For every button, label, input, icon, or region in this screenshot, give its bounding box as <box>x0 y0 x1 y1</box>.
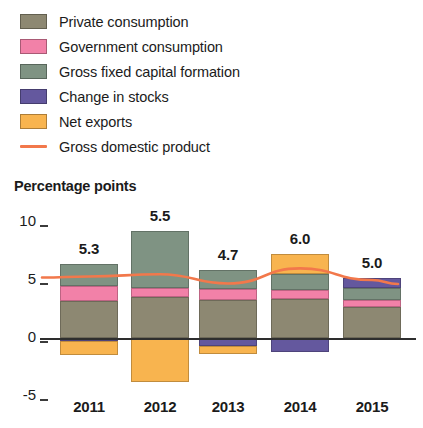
bar-segment <box>343 300 401 307</box>
legend-swatch-private-icon <box>20 14 47 29</box>
legend-label-government: Government consumption <box>59 39 223 55</box>
bar-segment <box>60 264 118 286</box>
y-axis-tick-label: 5 <box>4 270 36 287</box>
bar-segment <box>131 297 189 338</box>
legend-label-stocks: Change in stocks <box>59 89 169 105</box>
bar-segment <box>131 288 189 297</box>
legend-item-gfcf: Gross fixed capital formation <box>0 59 423 84</box>
x-axis-tick-label: 2011 <box>60 398 118 415</box>
bar-segment <box>199 270 257 290</box>
bar-segment <box>60 341 118 355</box>
y-axis-tick-mark <box>40 341 48 343</box>
legend-label-private: Private consumption <box>59 14 188 30</box>
x-axis-tick-label: 2013 <box>199 398 257 415</box>
bar-value-label: 6.0 <box>271 230 329 247</box>
legend-swatch-government-icon <box>20 39 47 54</box>
bar-segment <box>271 290 329 298</box>
bar-value-label: 5.3 <box>60 240 118 257</box>
zero-baseline <box>40 338 416 340</box>
bar-segment <box>271 299 329 338</box>
x-axis-tick-label: 2015 <box>343 398 401 415</box>
bar-value-label: 5.0 <box>343 254 401 271</box>
chart-block: Percentage points 1050-55.320115.520124.… <box>0 170 423 428</box>
bar-segment <box>60 286 118 301</box>
bar-value-label: 4.7 <box>199 246 257 263</box>
bar-segment <box>343 278 401 288</box>
legend-label-net_exports: Net exports <box>59 114 132 130</box>
legend-item-net_exports: Net exports <box>0 109 423 134</box>
legend-label-gdp: Gross domestic product <box>59 139 210 155</box>
bar-segment <box>271 274 329 290</box>
x-axis-tick-label: 2014 <box>271 398 329 415</box>
legend-swatch-stocks-icon <box>20 89 47 104</box>
bar-segment <box>199 346 257 354</box>
chart-legend: Private consumptionGovernment consumptio… <box>0 0 423 159</box>
y-axis-tick-label: 10 <box>4 212 36 229</box>
bar-value-label: 5.5 <box>131 207 189 224</box>
plot-area: 1050-55.320115.520124.720136.020145.0201… <box>0 170 423 428</box>
legend-swatch-gdp-icon <box>20 139 47 154</box>
legend-item-government: Government consumption <box>0 34 423 59</box>
bar-segment <box>343 288 401 300</box>
bar-segment <box>131 231 189 288</box>
x-axis-tick-label: 2012 <box>131 398 189 415</box>
legend-swatch-gfcf-icon <box>20 64 47 79</box>
y-axis-tick-mark <box>40 225 48 227</box>
legend-item-gdp: Gross domestic product <box>0 134 423 159</box>
bar-segment <box>271 338 329 352</box>
legend-item-private: Private consumption <box>0 9 423 34</box>
y-axis-tick-mark <box>40 399 48 401</box>
legend-swatch-net_exports-icon <box>20 114 47 129</box>
bar-segment <box>271 254 329 274</box>
bar-segment <box>199 300 257 338</box>
bar-segment <box>343 307 401 338</box>
y-axis-tick-label: -5 <box>4 386 36 403</box>
bar-segment <box>131 338 189 382</box>
legend-item-stocks: Change in stocks <box>0 84 423 109</box>
legend-label-gfcf: Gross fixed capital formation <box>59 64 240 80</box>
bar-segment <box>199 289 257 299</box>
y-axis-tick-mark <box>40 283 48 285</box>
y-axis-tick-label: 0 <box>4 328 36 345</box>
bar-segment <box>60 301 118 338</box>
